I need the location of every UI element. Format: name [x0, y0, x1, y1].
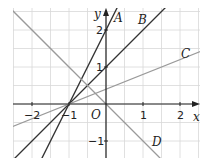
y-tick-label: 2 — [96, 24, 103, 37]
line-label-C: C — [181, 47, 190, 61]
line-label-B: B — [137, 13, 147, 27]
origin-label: O — [91, 108, 101, 122]
x-tick-label: 2 — [177, 109, 184, 122]
line-label-A: A — [113, 11, 123, 25]
x-tick-label: −1 — [61, 109, 77, 122]
x-tick-label: 1 — [140, 109, 147, 122]
x-tick-label: −2 — [24, 109, 40, 122]
x-axis-label: x — [193, 110, 200, 124]
y-axis-label: y — [93, 7, 101, 21]
y-tick-label: −1 — [88, 135, 104, 148]
y-tick-label: 1 — [96, 61, 103, 74]
line-label-D: D — [151, 135, 162, 149]
coordinate-plane: ABCDxyO−2−112−112 — [0, 0, 212, 168]
y-axis-arrow-icon — [103, 8, 109, 16]
